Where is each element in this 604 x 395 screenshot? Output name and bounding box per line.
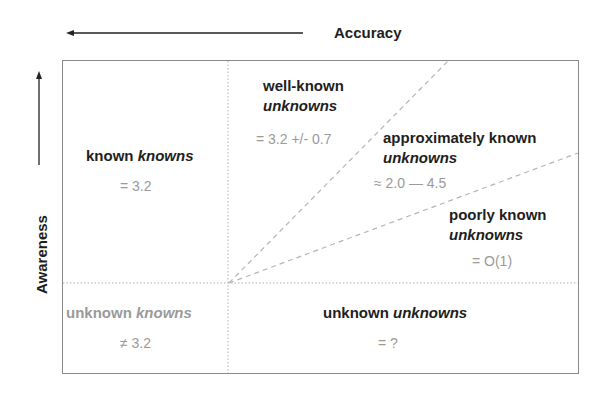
well-known-unknowns-value: = 3.2 +/- 0.7: [256, 130, 332, 148]
well-known-unknowns-label: well-knownunknowns: [263, 76, 344, 116]
awareness-axis-label: Awareness: [33, 205, 50, 305]
approximately-known-unknowns-label: approximately knownunknowns: [383, 128, 536, 168]
accuracy-axis-label: Accuracy: [334, 24, 402, 41]
known-knowns-value: = 3.2: [120, 177, 152, 195]
unknown-unknowns-value: = ?: [378, 334, 398, 352]
awareness-arrow: [36, 71, 42, 165]
unknown-knowns-label: unknown knowns: [66, 303, 192, 323]
poorly-known-unknowns-label: poorly knownunknowns: [449, 205, 547, 245]
unknown-knowns-value: ≠ 3.2: [120, 334, 151, 352]
known-knowns-label: known knowns: [86, 146, 194, 166]
poorly-known-unknowns-value: = O(1): [472, 252, 512, 270]
approximately-known-unknowns-value: ≈ 2.0 — 4.5: [374, 174, 446, 192]
unknown-unknowns-label: unknown unknowns: [323, 303, 467, 323]
accuracy-arrow: [66, 30, 303, 36]
